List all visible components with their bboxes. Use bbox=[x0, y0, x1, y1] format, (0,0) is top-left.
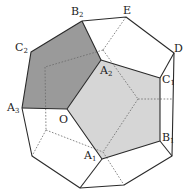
label-A3: A3 bbox=[6, 101, 19, 115]
label-C1: C1 bbox=[162, 73, 175, 87]
label-C2: C2 bbox=[15, 41, 28, 55]
label-B2: B2 bbox=[71, 5, 84, 19]
label-A1: A1 bbox=[83, 149, 96, 163]
label-O: O bbox=[59, 113, 68, 126]
label-E: E bbox=[123, 4, 131, 17]
label-D: D bbox=[174, 42, 183, 55]
dodecahedron-diagram: B2 E D C2 A2 C1 A3 O B1 A1 bbox=[0, 0, 185, 196]
